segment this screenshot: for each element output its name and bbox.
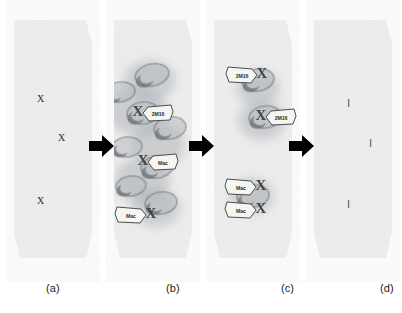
svg-text:X: X — [146, 205, 157, 221]
svg-text:X: X — [133, 103, 144, 119]
svg-text:X: X — [256, 200, 267, 216]
svg-text:Mac: Mac — [126, 213, 136, 219]
figure-container: X2M16XMacXMacX2M16X2M16XMacXMac XXXIII (… — [0, 0, 402, 313]
panel-caption-d: (d) — [380, 282, 394, 294]
svg-text:X: X — [256, 177, 267, 193]
svg-text:Mac: Mac — [236, 185, 246, 191]
svg-text:2M16: 2M16 — [152, 111, 165, 117]
panel-body-d — [314, 20, 392, 258]
svg-text:X: X — [138, 152, 149, 168]
panel-body-c — [214, 20, 292, 258]
svg-text:2M16: 2M16 — [275, 115, 288, 121]
arrow-a-to-b — [89, 135, 114, 157]
svg-text:X: X — [256, 107, 267, 123]
svg-text:Mac: Mac — [158, 160, 168, 166]
panel-caption-a: (a) — [46, 282, 60, 294]
svg-text:Mac: Mac — [236, 208, 246, 214]
panel-body-a — [14, 20, 92, 258]
svg-text:2M16: 2M16 — [236, 73, 249, 79]
arrow-c-to-d — [289, 135, 314, 157]
arrow-b-to-c — [189, 135, 214, 157]
panel-caption-b: (b) — [166, 282, 180, 294]
svg-text:X: X — [257, 65, 268, 81]
panel-caption-c: (c) — [281, 282, 294, 294]
figure-canvas: X2M16XMacXMacX2M16X2M16XMacXMac — [0, 0, 402, 313]
